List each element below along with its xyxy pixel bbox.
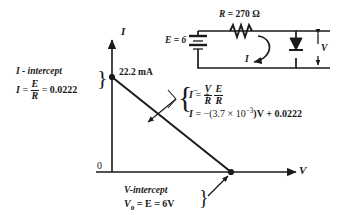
eq2-tail: )V + 0.0222 (253, 108, 302, 119)
circuit-schematic (189, 25, 330, 68)
eq1-fraction-2-denominator: R (214, 96, 223, 107)
output-voltage-label: V (321, 44, 327, 54)
i-intercept-fraction: E R (31, 79, 40, 101)
eq1-fraction-2-numerator: E (214, 84, 223, 96)
resistor-label: R = 270 Ω (219, 10, 260, 20)
i-intercept-fraction-denominator: R (31, 91, 40, 102)
battery-symbol (189, 36, 207, 49)
v-intercept-title-row: V-intercept (124, 186, 167, 196)
i-intercept-fraction-numerator: E (31, 79, 40, 91)
i-intercept-lhs: I (16, 84, 20, 95)
v-intercept-symbol: V (124, 198, 131, 209)
i-intercept-brace: } (97, 65, 108, 91)
current-intercept-value: 22.2 mA (119, 68, 153, 78)
i-intercept-title: I - intercept (16, 66, 62, 76)
resistor-label-equals: = (228, 9, 233, 19)
v-intercept-rest: = E = 6V (137, 198, 175, 209)
source-label: E = 6 (165, 36, 186, 46)
eq2-body: −(3.7 × 10 (204, 108, 246, 119)
current-loop-arrow (254, 36, 270, 62)
origin-label: 0 (97, 161, 102, 171)
v-intercept-equation: Vo = E = 6V (124, 199, 175, 212)
eq1-minus-sign: − (193, 85, 198, 95)
loop-current-label: I (245, 55, 249, 65)
x-axis-label: V (299, 165, 306, 176)
v-intercept-title: V-intercept (124, 185, 167, 195)
diode-symbol (289, 38, 303, 50)
i-intercept-eq1: = (22, 84, 28, 95)
equation-line-1: I = V R − + E R (189, 85, 239, 107)
i-intercept-caption: I - intercept (16, 67, 62, 77)
equation-line-2: I = −(3.7 × 10−3)V + 0.0222 (189, 108, 302, 119)
resistor-label-value: 270 Ω (236, 9, 260, 19)
v-intercept-leader (208, 176, 228, 196)
i-intercept-equation: I = E R = 0.0222 (16, 80, 77, 102)
eq2-equals: = (195, 108, 201, 119)
figure-root: I V 0 22.2 mA I - intercept I = E R = 0.… (0, 0, 346, 221)
y-axis-label: I (121, 26, 125, 37)
v-intercept-brace: } (199, 186, 209, 209)
i-intercept-value: 0.0222 (50, 84, 78, 95)
v-intercept-subscript: o (131, 204, 135, 212)
i-intercept-eq2: = (42, 84, 48, 95)
resistor-label-symbol: R (219, 9, 225, 19)
eq1-fraction-2: E R (214, 84, 223, 106)
eq2-lhs: I (189, 108, 193, 119)
eq1-plus: + (204, 89, 210, 100)
